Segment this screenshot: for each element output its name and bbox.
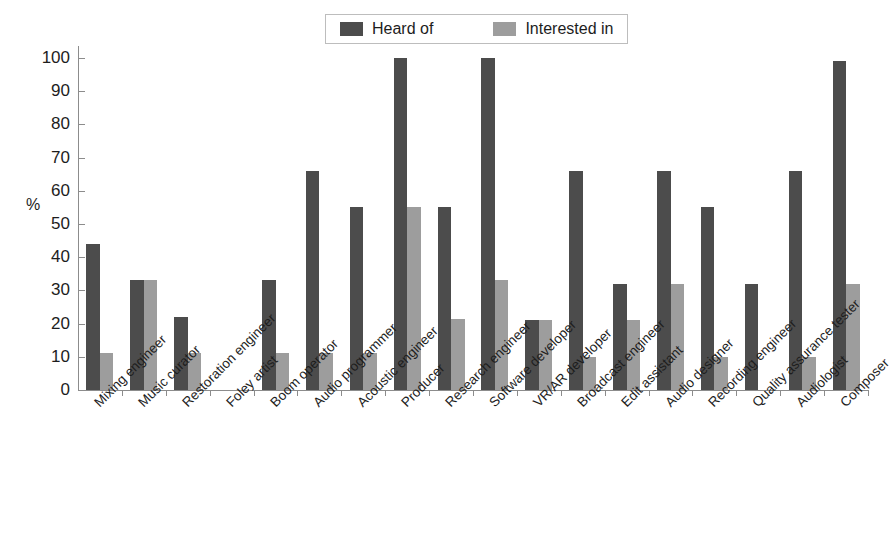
x-axis-tick [385,390,386,396]
x-axis-tick [254,390,255,396]
y-axis-tick-label: 80 [0,115,70,132]
x-axis-tick [473,390,474,396]
x-axis-tick [780,390,781,396]
legend-swatch-heard-of [340,22,363,36]
y-axis-tick-label: 20 [0,315,70,332]
bar [86,244,100,390]
y-axis-tick-label: 30 [0,281,70,298]
y-axis-tick-label-text: 80 [12,115,70,132]
y-axis-tick-label-text: 70 [12,149,70,166]
legend-label-interested-in: Interested in [525,21,613,37]
plot-area [78,58,868,390]
y-axis-tick-label-text: 40 [12,248,70,265]
y-axis-tick-label: 90 [0,82,70,99]
x-axis-tick [561,390,562,396]
y-axis-tick-label: 0 [0,381,70,398]
x-axis-tick [649,390,650,396]
x-axis-tick [692,390,693,396]
x-axis-tick [341,390,342,396]
y-axis-tick-label-text: 20 [12,315,70,332]
y-axis-tick-label-text: 60 [12,182,70,199]
x-axis-tick [297,390,298,396]
x-axis-tick [429,390,430,396]
y-axis-tick-label-text: 90 [12,82,70,99]
x-axis-tick [166,390,167,396]
bar [481,58,495,390]
chart-legend: Heard of Interested in [325,14,628,44]
legend-label-heard-of: Heard of [372,21,433,37]
x-axis-tick [210,390,211,396]
y-axis-tick-label-text: 0 [12,381,70,398]
bar [671,284,685,390]
y-axis-tick-label-text: 10 [12,348,70,365]
y-axis-tick-label: 70 [0,149,70,166]
legend-item-interested-in: Interested in [493,21,613,37]
y-axis-tick-label: 10 [0,348,70,365]
x-axis-tick [736,390,737,396]
bar [833,61,847,390]
y-axis-tick-label-text: 100 [12,49,70,66]
bar [394,58,408,390]
y-axis-tick-label: 40 [0,248,70,265]
x-axis-tick [824,390,825,396]
legend-item-heard-of: Heard of [340,21,433,37]
y-axis-tick-label: 50 [0,215,70,232]
legend-swatch-interested-in [493,22,516,36]
y-axis-tick-label: 100 [0,49,70,66]
x-axis-tick [605,390,606,396]
y-axis-tick-label-text: 50 [12,215,70,232]
y-axis-tick-label: 60 [0,182,70,199]
y-axis-tick-label-text: 30 [12,281,70,298]
y-axis-tick [78,390,85,391]
x-axis-tick [122,390,123,396]
x-axis-tick [868,390,869,396]
x-axis-tick [517,390,518,396]
